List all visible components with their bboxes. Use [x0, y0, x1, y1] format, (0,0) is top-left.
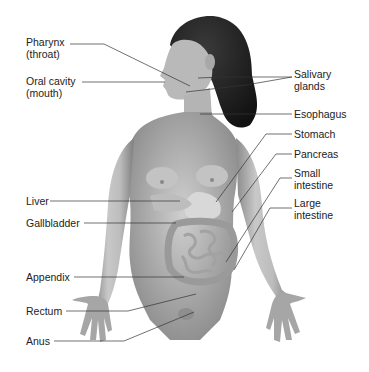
label-pharynx: Pharynx (throat)	[26, 36, 65, 60]
label-large-intestine: Large intestine	[294, 197, 333, 221]
right-hand	[72, 296, 112, 342]
label-oral-cavity: Oral cavity (mouth)	[26, 75, 76, 99]
label-salivary-glands: Salivary glands	[294, 68, 331, 92]
digestive-system-diagram: Pharynx (throat) Oral cavity (mouth) Liv…	[0, 0, 369, 372]
label-stomach: Stomach	[294, 128, 335, 140]
label-esophagus: Esophagus	[294, 108, 347, 120]
right-arm	[94, 138, 134, 312]
label-pancreas: Pancreas	[294, 148, 338, 160]
label-rectum: Rectum	[26, 305, 62, 317]
label-anus: Anus	[26, 335, 50, 347]
label-liver: Liver	[26, 195, 49, 207]
label-gallbladder: Gallbladder	[26, 217, 80, 229]
left-hand	[266, 292, 306, 342]
label-appendix: Appendix	[26, 271, 70, 283]
label-small-intestine: Small intestine	[294, 167, 333, 191]
